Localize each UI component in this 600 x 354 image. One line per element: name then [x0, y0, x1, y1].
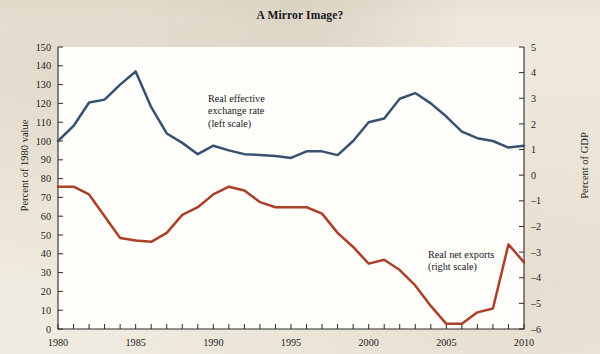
- x-tick-label: 1990: [203, 337, 223, 348]
- y-right-tick-label: –1: [530, 195, 541, 206]
- tick-label-layer: 0102030405060708090100110120130140150–6–…: [36, 42, 541, 348]
- x-tick-label: 1995: [281, 337, 301, 348]
- y-left-tick-label: 10: [41, 305, 51, 316]
- y-right-tick-label: 0: [531, 170, 536, 181]
- y-left-tick-label: 20: [41, 286, 51, 297]
- x-tick-label: 2005: [436, 337, 456, 348]
- axis-layer: [58, 47, 524, 329]
- y-right-tick-label: 1: [531, 144, 536, 155]
- x-tick-label: 2000: [358, 337, 378, 348]
- y-right-tick-label: 3: [531, 93, 536, 104]
- x-tick-label: 1985: [125, 337, 145, 348]
- y-right-tick-label: –2: [530, 221, 541, 232]
- y-left-tick-label: 70: [41, 192, 51, 203]
- y-left-tick-label: 50: [41, 230, 51, 241]
- y-left-tick-label: 60: [41, 211, 51, 222]
- y-right-tick-label: 5: [531, 42, 536, 53]
- y-left-tick-label: 40: [41, 248, 51, 259]
- y-right-tick-label: 4: [531, 67, 536, 78]
- y-right-tick-label: –5: [530, 298, 541, 309]
- y-right-tick-label: –4: [530, 272, 541, 283]
- plot-frame: [58, 47, 524, 329]
- chart-svg: 0102030405060708090100110120130140150–6–…: [0, 0, 600, 354]
- y-right-tick-label: –3: [530, 247, 541, 258]
- y-left-tick-label: 0: [46, 324, 51, 335]
- series-line-blue: [58, 71, 524, 157]
- x-tick-label: 1980: [48, 337, 68, 348]
- y-left-tick-label: 130: [36, 79, 51, 90]
- y-left-tick-label: 110: [36, 117, 51, 128]
- y-left-tick-label: 90: [41, 154, 51, 165]
- series-line-red: [58, 187, 524, 324]
- x-tick-label: 2010: [514, 337, 534, 348]
- y-left-tick-label: 120: [36, 98, 51, 109]
- data-series-layer: [58, 71, 524, 323]
- y-right-tick-label: –6: [530, 324, 541, 335]
- y-left-tick-label: 30: [41, 267, 51, 278]
- y-left-tick-label: 150: [36, 42, 51, 53]
- y-left-tick-label: 100: [36, 136, 51, 147]
- y-left-tick-label: 80: [41, 173, 51, 184]
- y-right-tick-label: 2: [531, 119, 536, 130]
- y-left-tick-label: 140: [36, 60, 51, 71]
